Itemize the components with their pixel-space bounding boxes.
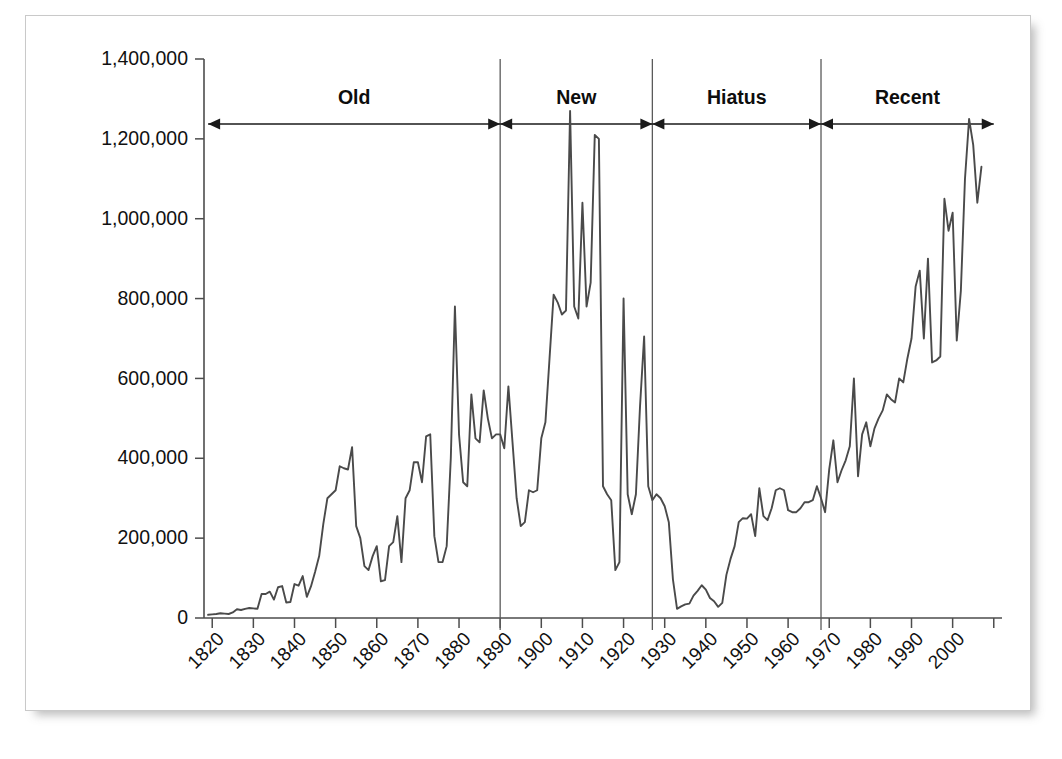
x-tick-label: 1940 — [677, 628, 722, 673]
period-label-old: Old — [338, 86, 371, 108]
x-tick-label: 1870 — [389, 628, 434, 673]
y-axis — [195, 59, 204, 618]
y-tick-label: 600,000 — [118, 367, 189, 389]
figure-root: 0200,000400,000600,000800,0001,000,0001,… — [0, 0, 1062, 759]
period-label-recent: Recent — [875, 86, 941, 108]
chart-canvas: 0200,000400,000600,000800,0001,000,0001,… — [26, 16, 1032, 712]
period-arrows — [208, 119, 994, 130]
y-tick-labels: 0200,000400,000600,000800,0001,000,0001,… — [101, 47, 188, 628]
period-label-hiatus: Hiatus — [707, 86, 767, 108]
x-tick-label: 1830 — [224, 628, 269, 673]
arrow-head-left — [500, 119, 512, 130]
data-series-line — [208, 111, 981, 615]
y-tick-label: 0 — [177, 606, 188, 628]
x-tick-label: 1920 — [595, 628, 640, 673]
x-tick-label: 1860 — [348, 628, 393, 673]
arrow-head-left — [652, 119, 664, 130]
x-tick-label: 2000 — [924, 628, 969, 673]
arrow-head-right — [640, 119, 652, 130]
x-axis — [204, 618, 1002, 628]
x-tick-label: 1850 — [307, 628, 352, 673]
x-tick-label: 1930 — [636, 628, 681, 673]
x-tick-label: 1960 — [759, 628, 804, 673]
period-divider-lines — [500, 59, 821, 630]
x-tick-label: 1990 — [883, 628, 928, 673]
x-tick-label: 1890 — [471, 628, 516, 673]
arrow-head-right — [982, 119, 994, 130]
arrow-head-right — [809, 119, 821, 130]
x-tick-label: 1980 — [841, 628, 886, 673]
y-tick-label: 1,400,000 — [101, 47, 188, 69]
x-tick-label: 1950 — [718, 628, 763, 673]
y-tick-label: 1,200,000 — [101, 127, 188, 149]
arrow-head-left — [821, 119, 833, 130]
figure-card: 0200,000400,000600,000800,0001,000,0001,… — [25, 15, 1031, 711]
period-labels: OldNewHiatusRecent — [338, 86, 941, 108]
x-tick-label: 1900 — [512, 628, 557, 673]
x-tick-label: 1880 — [430, 628, 475, 673]
x-tick-label: 1820 — [183, 628, 228, 673]
x-tick-label: 1910 — [554, 628, 599, 673]
x-tick-labels: 1820183018401850186018701880189019001910… — [183, 628, 968, 673]
y-tick-label: 1,000,000 — [101, 207, 188, 229]
x-tick-label: 1840 — [266, 628, 311, 673]
arrow-head-left — [208, 119, 220, 130]
period-label-new: New — [556, 86, 597, 108]
arrow-head-right — [488, 119, 500, 130]
series-path — [208, 111, 981, 615]
y-tick-label: 400,000 — [118, 446, 189, 468]
y-tick-label: 200,000 — [118, 526, 189, 548]
y-tick-label: 800,000 — [118, 287, 189, 309]
x-tick-label: 1970 — [800, 628, 845, 673]
